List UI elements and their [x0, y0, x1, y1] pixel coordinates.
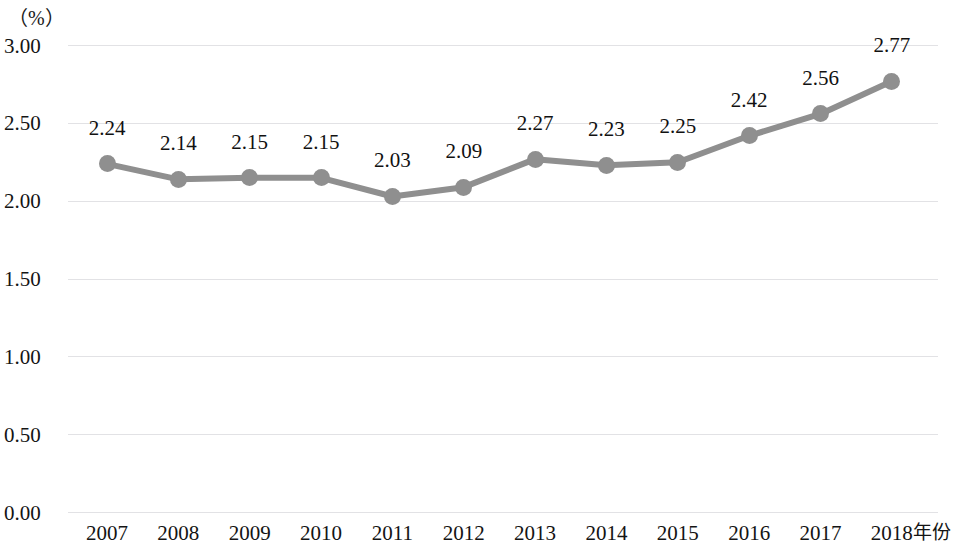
x-axis-tick-label: 2018 [871, 521, 913, 545]
data-point-label: 2.25 [659, 116, 696, 137]
data-point-marker [455, 179, 472, 196]
data-point-marker [527, 151, 544, 168]
data-point-marker [313, 169, 330, 186]
data-point-marker [598, 157, 615, 174]
data-point-label: 2.24 [89, 117, 126, 138]
series-polyline [107, 81, 892, 196]
x-axis-tick-label: 2010 [300, 521, 342, 545]
data-point-marker [669, 154, 686, 171]
data-point-label: 2.09 [445, 141, 482, 162]
data-point-label: 2.03 [374, 150, 411, 171]
data-point-marker [99, 155, 116, 172]
data-point-label: 2.56 [802, 67, 839, 88]
plot-area: 0.000.501.001.502.002.503.00 2.242.142.1… [0, 0, 960, 555]
line-chart: （%） 0.000.501.001.502.002.503.00 2.242.1… [0, 0, 960, 555]
data-point-marker [170, 171, 187, 188]
data-point-label: 2.15 [231, 131, 268, 152]
data-point-label: 2.15 [303, 131, 340, 152]
data-point-marker [384, 188, 401, 205]
data-point-label: 2.23 [588, 119, 625, 140]
x-axis-tick-label: 2013 [514, 521, 556, 545]
x-axis-tick-label: 2015 [657, 521, 699, 545]
x-axis-tick-label: 2014 [585, 521, 627, 545]
x-axis-tick-label: 2016 [728, 521, 770, 545]
x-axis-tick-label: 2011 [372, 521, 413, 545]
x-axis-tick-label: 2009 [229, 521, 271, 545]
data-point-marker [741, 127, 758, 144]
data-point-label: 2.42 [731, 89, 768, 110]
x-axis-tick-label: 2017 [800, 521, 842, 545]
x-axis-tick-label: 2007 [86, 521, 128, 545]
x-axis-tick-label: 2012 [443, 521, 485, 545]
data-point-label: 2.14 [160, 133, 197, 154]
data-point-label: 2.77 [873, 35, 910, 56]
data-point-label: 2.27 [517, 113, 554, 134]
x-axis-title: 年份 [913, 521, 951, 545]
x-axis-tick-label: 2008 [157, 521, 199, 545]
